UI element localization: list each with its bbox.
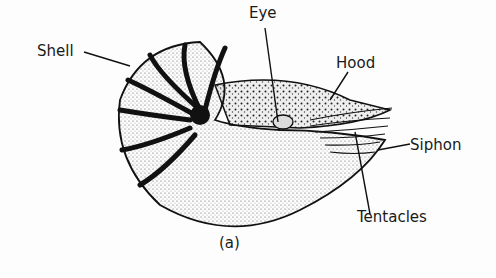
figure-caption: (a) [219,236,240,251]
label-siphon: Siphon [410,138,461,153]
label-eye: Eye [249,6,277,21]
eye-shape [273,115,293,129]
label-tentacles: Tentacles [357,210,427,225]
label-shell: Shell [37,44,74,59]
nautilus-diagram: Shell Eye Hood Siphon Tentacles (a) [0,0,496,278]
label-hood: Hood [336,56,375,71]
umbilicus [190,105,210,125]
hood-shape [215,80,390,128]
